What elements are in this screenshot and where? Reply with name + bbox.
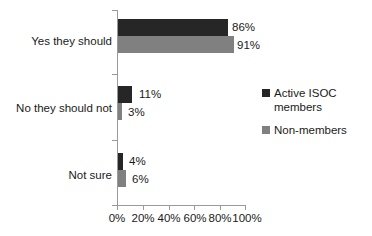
bar-series-b-yes	[118, 36, 234, 53]
x-tick-label-100: 100%	[230, 213, 264, 225]
x-axis-tick	[117, 206, 118, 210]
x-tick-label-0: 0%	[104, 213, 130, 225]
x-axis-tick	[169, 206, 170, 210]
category-label-yes: Yes they should	[31, 36, 112, 48]
data-label-series-a-no: 11%	[139, 89, 161, 101]
legend-swatch-icon	[262, 89, 270, 97]
x-axis-tick	[245, 206, 246, 210]
data-label-series-a-yes: 86%	[232, 22, 255, 34]
category-label-not-sure: Not sure	[69, 170, 112, 182]
data-label-series-b-not-sure: 6%	[132, 174, 149, 186]
legend-label-non-members: Non-members	[274, 123, 347, 137]
bar-series-a-no	[118, 86, 132, 103]
legend-entry-active-isoc-members: Active ISOC members	[262, 86, 370, 114]
x-axis-tick	[194, 206, 195, 210]
legend-swatch-icon	[262, 126, 270, 134]
data-label-series-b-no: 3%	[128, 107, 145, 119]
data-label-series-b-yes: 91%	[237, 40, 260, 52]
legend-entry-non-members: Non-members	[262, 123, 370, 137]
bar-series-a-yes	[118, 19, 228, 36]
bar-series-b-no	[118, 103, 122, 120]
y-axis-tick	[112, 10, 117, 11]
bar-chart: Yes they should No they should not Not s…	[0, 0, 372, 236]
bar-series-a-not-sure	[118, 153, 123, 170]
legend: Active ISOC members Non-members	[262, 86, 370, 146]
legend-label-active-isoc-members: Active ISOC members	[274, 86, 370, 114]
y-axis-tick	[112, 140, 117, 141]
x-axis-tick	[220, 206, 221, 210]
bar-series-b-not-sure	[118, 170, 126, 187]
category-label-no: No they should not	[16, 103, 112, 115]
y-axis-tick	[112, 74, 117, 75]
data-label-series-a-not-sure: 4%	[129, 156, 146, 168]
x-axis-line	[117, 205, 246, 206]
x-axis-tick	[143, 206, 144, 210]
